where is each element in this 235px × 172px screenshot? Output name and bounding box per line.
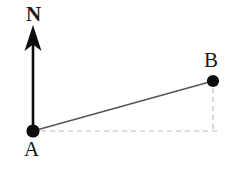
- bearing-diagram-figure: N A B: [0, 0, 235, 172]
- point-b-label: B: [204, 50, 218, 71]
- point-marker-a: [26, 124, 39, 137]
- north-label: N: [26, 4, 41, 25]
- point-a-label: A: [24, 139, 39, 160]
- connector-line-ab: [33, 81, 213, 131]
- point-marker-b: [207, 75, 219, 87]
